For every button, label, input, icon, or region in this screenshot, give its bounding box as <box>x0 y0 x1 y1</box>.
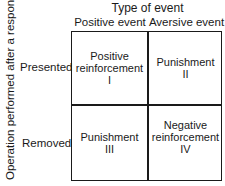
cell-label-line1: Punishment <box>156 56 214 68</box>
cell-label-line1: Negative <box>164 119 207 131</box>
row-header-presented: Presented <box>20 60 72 74</box>
cell-numeral: III <box>105 143 114 155</box>
cell-label-line2: reinforcement <box>76 62 143 74</box>
cell-label-line1: Positive <box>90 50 129 62</box>
column-group-title: Type of event <box>72 1 223 15</box>
cell-numeral: IV <box>180 143 190 155</box>
cell-punishment-presented: Punishment II <box>149 32 222 104</box>
cell-punishment-removed: Punishment III <box>72 106 147 180</box>
cell-numeral: I <box>108 74 111 86</box>
column-header-aversive-event: Aversive event <box>148 15 225 29</box>
cell-label-line2: reinforcement <box>152 131 219 143</box>
y-axis-label: Operation performed after a response <box>3 4 17 180</box>
cell-numeral: II <box>182 68 188 80</box>
cell-label-line1: Punishment <box>80 131 138 143</box>
row-header-removed: Removed <box>22 136 71 150</box>
cell-negative-reinforcement: Negative reinforcement IV <box>149 100 222 174</box>
cell-positive-reinforcement: Positive reinforcement I <box>72 32 147 104</box>
column-header-positive-event: Positive event <box>72 15 148 29</box>
